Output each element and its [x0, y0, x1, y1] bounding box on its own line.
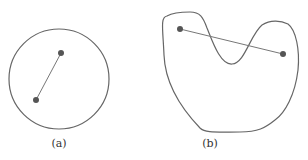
- diagram-canvas: [0, 0, 308, 160]
- segment-b: [180, 29, 283, 54]
- point-a2: [33, 97, 39, 103]
- caption-b: (b): [202, 137, 218, 150]
- figure-b-nonconvex: [163, 12, 299, 132]
- point-b1: [177, 26, 183, 32]
- segment-a: [36, 53, 61, 100]
- point-b2: [280, 51, 286, 57]
- circle-boundary: [9, 29, 109, 129]
- figure-a-convex: [9, 29, 109, 129]
- caption-a: (a): [51, 137, 66, 150]
- point-a1: [58, 50, 64, 56]
